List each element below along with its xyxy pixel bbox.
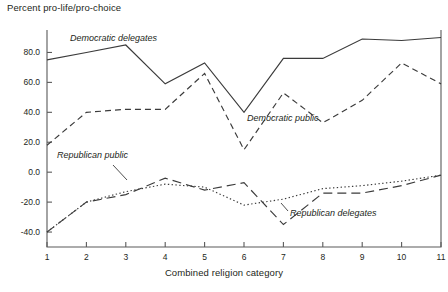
y-axis-tick-label: -20.0 — [2, 197, 40, 207]
x-axis-tick-label: 10 — [387, 252, 417, 262]
republican-public-leader — [113, 165, 127, 180]
y-axis-tick-label: 80.0 — [2, 47, 40, 57]
x-axis-tick-label: 8 — [308, 252, 338, 262]
series-line-republican-delegates — [47, 175, 441, 232]
plot-area — [0, 0, 448, 292]
x-axis-title: Combined religion category — [0, 267, 448, 278]
y-axis-tick-label: 0.0 — [2, 167, 40, 177]
y-axis-tick-label: 20.0 — [2, 137, 40, 147]
x-axis-tick-label: 11 — [426, 252, 448, 262]
y-axis-tick-label: 60.0 — [2, 77, 40, 87]
x-axis-tick-label: 5 — [190, 252, 220, 262]
democratic-delegates-label: Democratic delegates — [70, 33, 157, 43]
chart-figure: Percent pro-life/pro-choice Combined rel… — [0, 0, 448, 292]
x-axis-tick-label: 7 — [268, 252, 298, 262]
y-axis-tick-label: -40.0 — [2, 227, 40, 237]
series-line-democratic-public — [47, 63, 441, 150]
x-axis-tick-label: 4 — [150, 252, 180, 262]
series-line-republican-public — [47, 175, 441, 232]
x-axis-tick-label: 3 — [111, 252, 141, 262]
republican-delegates-label: Republican delegates — [290, 208, 377, 218]
series-line-democratic-delegates — [47, 37, 441, 112]
republican-delegates-leader — [281, 203, 288, 211]
axis-frame — [47, 30, 441, 247]
y-axis-title: Percent pro-life/pro-choice — [7, 2, 121, 13]
x-axis-tick-label: 1 — [32, 252, 62, 262]
x-axis-tick-label: 2 — [71, 252, 101, 262]
y-axis-tick-label: 40.0 — [2, 107, 40, 117]
republican-public-label: Republican public — [57, 150, 128, 160]
x-axis-tick-label: 9 — [347, 252, 377, 262]
democratic-public-label: Democratic public — [247, 113, 319, 123]
x-axis-tick-label: 6 — [229, 252, 259, 262]
